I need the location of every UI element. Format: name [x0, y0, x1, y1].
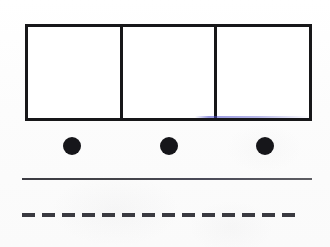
dash-segment: [282, 213, 295, 217]
dot-marker-3: [256, 137, 274, 155]
figure-canvas: [0, 0, 330, 247]
dash-segment: [62, 213, 75, 217]
dash-segment: [182, 213, 195, 217]
dash-segment: [222, 213, 235, 217]
box-row: [25, 24, 312, 121]
dash-segment: [102, 213, 115, 217]
box-cell-1: [28, 27, 120, 118]
dot-marker-2: [160, 137, 178, 155]
dash-segment: [42, 213, 55, 217]
dash-segment: [202, 213, 215, 217]
dashed-horizontal-line: [22, 213, 312, 217]
dash-segment: [162, 213, 175, 217]
solid-horizontal-line: [22, 178, 312, 180]
box-cell-3: [214, 27, 309, 118]
dot-marker-1: [63, 137, 81, 155]
dash-segment: [142, 213, 155, 217]
dash-segment: [242, 213, 255, 217]
dash-segment: [22, 213, 35, 217]
dash-segment: [122, 213, 135, 217]
dot-row: [0, 137, 330, 155]
dash-segment: [82, 213, 95, 217]
box-cell-2: [120, 27, 215, 118]
dash-segment: [262, 213, 275, 217]
